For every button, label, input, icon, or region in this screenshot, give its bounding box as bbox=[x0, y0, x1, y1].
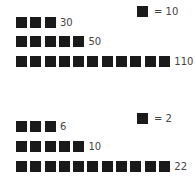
square-symbol-icon bbox=[45, 141, 56, 152]
square-symbol-icon bbox=[16, 17, 27, 28]
square-symbol-icon bbox=[87, 56, 98, 67]
pictograph-row: 10 bbox=[16, 141, 101, 152]
square-symbol-icon bbox=[59, 36, 70, 47]
square-symbol-icon bbox=[45, 121, 56, 132]
legend-square-icon bbox=[137, 6, 148, 17]
square-symbol-icon bbox=[16, 121, 27, 132]
square-symbol-icon bbox=[73, 141, 84, 152]
pictograph-row: 22 bbox=[16, 161, 187, 172]
square-symbol-icon bbox=[30, 121, 41, 132]
square-symbol-icon bbox=[30, 141, 41, 152]
square-symbol-icon bbox=[102, 56, 113, 67]
legend-top: = 10 bbox=[137, 6, 178, 17]
square-symbol-icon bbox=[59, 141, 70, 152]
square-symbol-icon bbox=[159, 56, 170, 67]
square-symbol-icon bbox=[73, 36, 84, 47]
row-value-label: 22 bbox=[174, 161, 187, 172]
pictograph-row: 110 bbox=[16, 56, 193, 67]
square-symbol-icon bbox=[30, 36, 41, 47]
square-symbol-icon bbox=[16, 161, 27, 172]
square-symbol-icon bbox=[130, 56, 141, 67]
legend-label: = 10 bbox=[154, 6, 178, 17]
square-symbol-icon bbox=[145, 161, 156, 172]
square-symbol-icon bbox=[16, 36, 27, 47]
row-value-label: 50 bbox=[88, 36, 101, 47]
square-symbol-icon bbox=[30, 161, 41, 172]
square-symbol-icon bbox=[73, 56, 84, 67]
legend-bottom: = 2 bbox=[137, 113, 172, 124]
square-symbol-icon bbox=[87, 161, 98, 172]
square-symbol-icon bbox=[16, 56, 27, 67]
row-value-label: 110 bbox=[174, 56, 193, 67]
pictograph-row: 6 bbox=[16, 121, 66, 132]
square-symbol-icon bbox=[59, 56, 70, 67]
square-symbol-icon bbox=[45, 36, 56, 47]
square-symbol-icon bbox=[116, 161, 127, 172]
square-symbol-icon bbox=[16, 141, 27, 152]
square-symbol-icon bbox=[159, 161, 170, 172]
row-value-label: 30 bbox=[60, 17, 73, 28]
pictograph-row: 50 bbox=[16, 36, 101, 47]
square-symbol-icon bbox=[45, 161, 56, 172]
square-symbol-icon bbox=[102, 161, 113, 172]
legend-label: = 2 bbox=[154, 113, 172, 124]
square-symbol-icon bbox=[130, 161, 141, 172]
pictograph-row: 30 bbox=[16, 17, 73, 28]
square-symbol-icon bbox=[45, 17, 56, 28]
square-symbol-icon bbox=[145, 56, 156, 67]
square-symbol-icon bbox=[116, 56, 127, 67]
legend-square-icon bbox=[137, 113, 148, 124]
square-symbol-icon bbox=[45, 56, 56, 67]
row-value-label: 6 bbox=[60, 121, 66, 132]
square-symbol-icon bbox=[73, 161, 84, 172]
square-symbol-icon bbox=[30, 17, 41, 28]
square-symbol-icon bbox=[30, 56, 41, 67]
square-symbol-icon bbox=[59, 161, 70, 172]
row-value-label: 10 bbox=[88, 141, 101, 152]
